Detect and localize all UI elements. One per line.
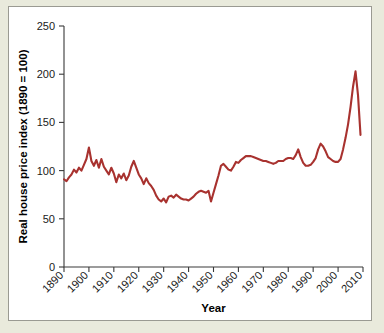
x-tick-label: 1960	[214, 269, 240, 295]
x-tick-label: 1940	[164, 269, 190, 295]
x-tick-label: 2010	[339, 269, 365, 295]
x-tick-label: 1930	[139, 269, 165, 295]
x-tick-label: 1950	[189, 269, 215, 295]
y-axis-title: Real house price index (1890 = 100)	[17, 49, 29, 243]
y-tick-label: 150	[37, 116, 55, 128]
y-tick-label: 200	[37, 68, 55, 80]
axis-lines	[64, 26, 363, 267]
x-tick-label: 1910	[89, 269, 115, 295]
x-tick-label: 1970	[239, 269, 265, 295]
y-tick-label: 250	[37, 20, 55, 32]
x-tick-label: 1920	[114, 269, 140, 295]
x-tick-label: 1990	[289, 269, 315, 295]
x-tick-label: 2000	[314, 269, 340, 295]
chart-card: 0501001502002501890190019101920193019401…	[8, 6, 372, 321]
x-axis-title: Year	[201, 302, 226, 314]
series-line	[64, 71, 361, 202]
x-tick-label: 1890	[40, 269, 66, 295]
x-tick-label: 1900	[65, 269, 91, 295]
chart-plot: 0501001502002501890190019101920193019401…	[9, 7, 371, 320]
y-tick-label: 50	[43, 213, 55, 225]
y-tick-label: 100	[37, 165, 55, 177]
figure-root: 0501001502002501890190019101920193019401…	[0, 0, 384, 333]
x-tick-label: 1980	[264, 269, 290, 295]
